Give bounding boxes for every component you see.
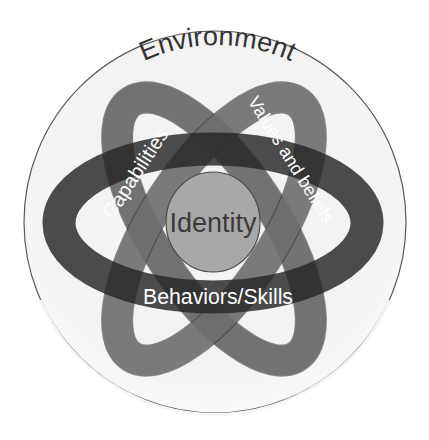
nested-levels-diagram: Environment Identity Capabilities Values…: [0, 0, 429, 440]
diagram-canvas: Environment Identity Capabilities Values…: [0, 0, 429, 440]
identity-label: Identity: [169, 208, 257, 238]
identity-region: Identity: [166, 172, 260, 272]
behaviors-skills-label: Behaviors/Skills: [143, 284, 293, 309]
